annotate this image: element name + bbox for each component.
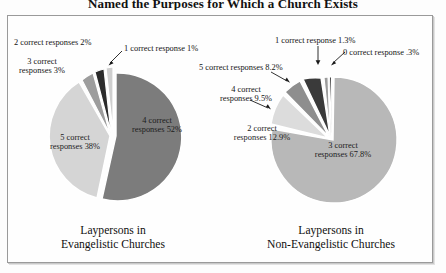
label-left-5-correct-line2: responses 38% <box>33 142 117 152</box>
leader-right-1correct-arrow <box>316 60 321 65</box>
label-right-3-correct-line2: responses 67.8% <box>302 150 384 160</box>
caption-left-line1: Laypersons in <box>33 224 193 237</box>
caption-right-line2: Non-Evangelistic Churches <box>242 238 420 251</box>
leader-right-4correct-arrow <box>266 104 271 109</box>
label-left-2-correct: 2 correct responses 2% <box>14 38 91 48</box>
leader-left-1correct <box>110 51 122 63</box>
leader-right-0correct-arrow <box>331 61 336 66</box>
label-right-0-correct: 0 correct response .3% <box>343 48 419 58</box>
label-right-1-correct: 1 correct response 1.3% <box>275 36 355 46</box>
pie-slice-4-correct-52[interactable] <box>102 73 182 201</box>
leader-right-5correct-arrow <box>285 78 290 83</box>
leader-right-5correct <box>271 72 287 81</box>
leader-left-1correct-arrow <box>109 61 114 66</box>
caption-right-line1: Laypersons in <box>248 224 414 237</box>
caption-left-line2: Evangelistic Churches <box>33 238 193 251</box>
label-right-4-correct-line2: responses 9.5% <box>205 94 287 104</box>
label-left-4-correct-line2: responses 52% <box>115 125 199 135</box>
label-right-2-correct-line2: responses 12.9% <box>221 133 303 143</box>
label-right-5-correct: 5 correct responses 8.2% <box>199 63 283 73</box>
label-left-1-correct: 1 correct response 1% <box>124 44 198 54</box>
label-left-3-correct-line2: responses 3% <box>3 66 81 76</box>
